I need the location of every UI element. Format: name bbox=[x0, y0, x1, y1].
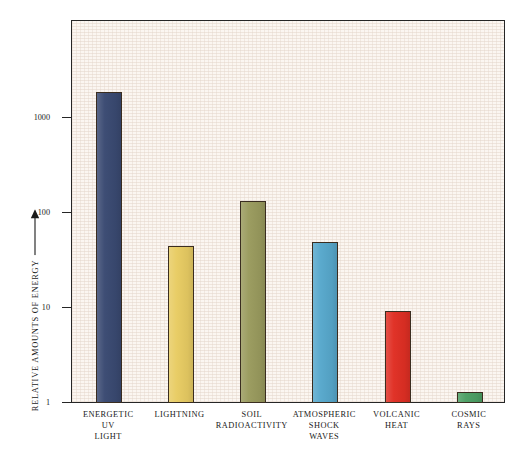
y-tick-label: 1000 bbox=[6, 113, 50, 122]
bar bbox=[168, 246, 194, 403]
y-tick-label: 1 bbox=[6, 398, 50, 407]
category-label-line: WAVES bbox=[269, 431, 379, 442]
bar bbox=[457, 392, 483, 403]
y-tick-label: 100 bbox=[6, 208, 50, 217]
plot-area bbox=[71, 20, 505, 403]
bar bbox=[312, 242, 338, 403]
y-tick-label: 10 bbox=[6, 303, 50, 312]
bar-shading bbox=[313, 243, 337, 402]
category-label-line: RAYS bbox=[414, 420, 523, 431]
bar-shading bbox=[386, 312, 410, 402]
bar-shading bbox=[169, 247, 193, 402]
plot-background-texture bbox=[72, 21, 504, 402]
bar bbox=[240, 201, 266, 403]
category-label-line: LIGHT bbox=[53, 431, 163, 442]
bar-shading bbox=[241, 202, 265, 402]
category-label-line: COSMIC bbox=[414, 409, 523, 420]
y-axis-title-text: RELATIVE AMOUNTS OF ENERGY bbox=[31, 260, 40, 411]
bar-shading bbox=[97, 93, 121, 402]
bar bbox=[385, 311, 411, 403]
x-axis-category-label: COSMICRAYS bbox=[414, 409, 523, 431]
bar bbox=[96, 92, 122, 403]
chart-figure: RELATIVE AMOUNTS OF ENERGY 1000100101 EN… bbox=[0, 0, 523, 465]
bar-shading bbox=[458, 393, 482, 402]
category-label-line: UV bbox=[53, 420, 163, 431]
